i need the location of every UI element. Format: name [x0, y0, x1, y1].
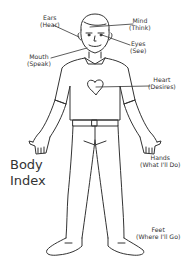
label-heart-name: Heart	[148, 76, 176, 83]
label-heart-meaning: (Desires)	[148, 83, 176, 90]
label-mouth-meaning: (Speak)	[27, 60, 51, 67]
head	[78, 14, 112, 53]
label-heart: Heart (Desires)	[148, 76, 176, 91]
title-line-1: Body	[10, 157, 46, 173]
label-ears: Ears (Hear)	[40, 14, 60, 29]
label-mind: Mind (Think)	[129, 17, 151, 32]
label-eyes-meaning: (See)	[130, 47, 146, 54]
label-eyes: Eyes (See)	[130, 40, 146, 55]
label-mouth: Mouth (Speak)	[27, 53, 51, 68]
label-hands: Hands (What I'll Do)	[140, 154, 181, 169]
label-mouth-name: Mouth	[27, 53, 51, 60]
title-line-2: Index	[10, 173, 46, 189]
label-ears-meaning: (Hear)	[40, 21, 60, 28]
label-feet: Feet (Where I'll Go)	[136, 226, 180, 241]
label-eyes-name: Eyes	[130, 40, 146, 47]
label-mind-meaning: (Think)	[129, 24, 151, 31]
label-hands-meaning: (What I'll Do)	[140, 161, 181, 168]
diagram-title: Body Index	[10, 157, 46, 189]
label-ears-name: Ears	[40, 14, 60, 21]
label-feet-meaning: (Where I'll Go)	[136, 233, 180, 240]
label-feet-name: Feet	[136, 226, 180, 233]
label-mind-name: Mind	[129, 17, 151, 24]
label-hands-name: Hands	[140, 154, 181, 161]
